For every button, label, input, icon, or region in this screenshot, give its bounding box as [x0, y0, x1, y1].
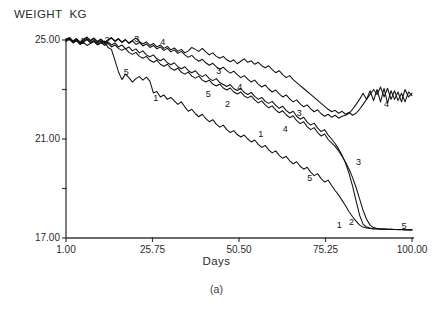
series-label-1: 1	[153, 93, 158, 103]
series-label-2: 2	[104, 35, 109, 45]
y-tick-label: 17.00	[14, 232, 60, 243]
series-label-3: 3	[134, 34, 139, 44]
series-label-2: 2	[225, 99, 230, 109]
series-label-3: 3	[356, 157, 361, 167]
series-label-2: 2	[349, 217, 354, 227]
series-label-5: 5	[307, 173, 312, 183]
series-label-1: 1	[337, 220, 342, 230]
axes-layer	[62, 38, 414, 242]
series-label-1: 1	[258, 129, 263, 139]
x-tick-label: 50.50	[209, 244, 269, 255]
series-label-5: 5	[206, 89, 211, 99]
series-label-5: 5	[124, 67, 129, 77]
x-tick-label: 1.00	[36, 244, 96, 255]
panel-caption: (a)	[0, 283, 433, 295]
x-axis-title: Days	[0, 255, 433, 267]
series-label-1: 1	[80, 36, 85, 46]
series-label-4: 4	[237, 82, 242, 92]
series-label-4: 4	[160, 37, 165, 47]
series-line-4	[66, 38, 412, 119]
y-tick-label: 25.00	[14, 34, 60, 45]
series-layer	[66, 37, 412, 230]
x-tick-label: 100.00	[382, 244, 433, 255]
series-label-3: 3	[297, 108, 302, 118]
series-label-layer: 1111222333344445555	[80, 34, 407, 231]
series-label-3: 3	[216, 66, 221, 76]
series-label-4: 4	[384, 99, 389, 109]
series-label-4: 4	[283, 124, 288, 134]
x-tick-label: 25.75	[123, 244, 183, 255]
y-tick-label: 21.00	[14, 133, 60, 144]
series-line-5	[66, 39, 412, 230]
weight-kg-line-chart: WEIGHT KG 1111222333344445555 17.0021.00…	[0, 0, 433, 311]
series-label-5: 5	[402, 221, 407, 231]
x-tick-label: 75.25	[296, 244, 356, 255]
